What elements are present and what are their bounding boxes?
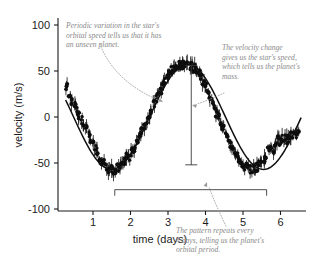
data-point [107,171,111,175]
annotation-line: Periodic variation in the star's [65,21,159,30]
data-point [272,151,276,155]
data-point [185,60,189,64]
x-axis-tick-label: 6 [277,216,283,228]
data-point [113,171,117,175]
annotation-line: orbital period. [176,245,220,254]
x-axis-tick-label: 3 [165,216,171,228]
data-point [221,124,225,128]
data-point [84,124,88,128]
annotation-line: gives us the star's speed, [222,53,297,62]
data-point [264,156,268,160]
radial-velocity-chart: 100500-50-100 123456 velocity (m/s) time… [0,0,334,267]
data-point [155,100,158,103]
data-point [225,134,229,138]
y-axis-title: velocity (m/s) [12,83,24,148]
annotation-line: mass. [222,72,239,81]
data-point [257,164,261,168]
x-axis-tick-label: 1 [90,216,96,228]
y-axis-tick-label: -50 [34,157,50,169]
data-point [133,147,136,150]
data-point [149,110,153,114]
data-point [218,114,221,117]
data-point [255,169,259,173]
annotation-line: which tells us the planet's [222,62,300,71]
data-point [129,154,132,157]
annotation-line: an unseen planet. [66,40,119,49]
y-axis-tick-label: 0 [44,111,50,123]
data-point [65,84,69,88]
data-point [281,134,284,137]
chart-canvas: 100500-50-100 123456 velocity (m/s) time… [0,0,334,267]
data-point [91,141,94,144]
data-point [142,126,146,130]
data-point [79,118,82,121]
data-point [88,133,92,137]
y-axis-tick-label: 50 [38,65,50,77]
annotation-line: orbital speed tells us that it has [66,31,161,40]
y-axis-tick-label: -100 [28,203,50,215]
data-point [291,136,294,139]
data-point [118,166,122,170]
data-point [270,146,273,149]
data-point [204,84,208,88]
data-point [249,164,253,168]
data-point [122,162,126,166]
data-point [96,151,100,155]
x-axis-tick-label: 2 [127,216,133,228]
y-axis-tick-label: 100 [32,19,50,31]
data-point [96,146,99,149]
annotation-line: The pattern repeats every [176,226,254,235]
data-point [73,101,77,105]
annotation-line: 4 days, telling us the planet's [176,236,264,245]
data-point [89,139,92,142]
data-point [251,170,254,173]
data-point [286,141,289,144]
annotation-line: The velocity change [222,43,283,52]
data-point [296,129,300,133]
